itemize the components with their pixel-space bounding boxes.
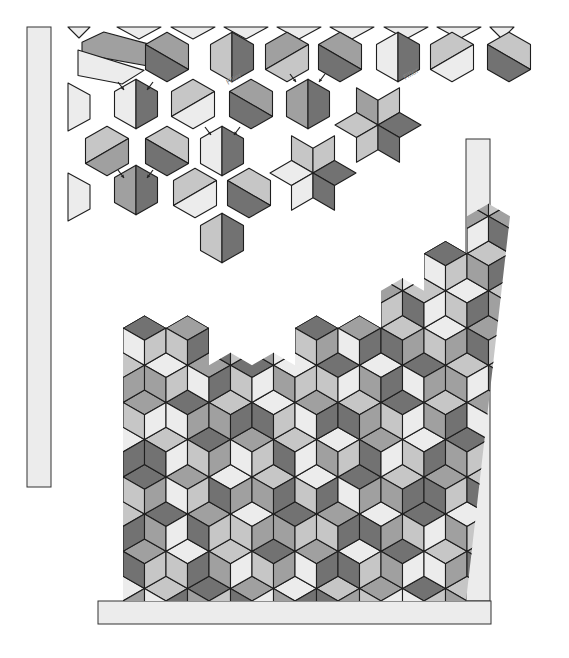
block-rhombus-right <box>145 253 167 290</box>
block-rhombus-top <box>80 539 123 564</box>
block-rhombus-right <box>80 514 102 551</box>
hex-half <box>115 79 137 129</box>
hex-half <box>222 126 244 176</box>
block-rhombus-right <box>532 551 554 588</box>
block-rhombus-right <box>102 328 124 365</box>
block-rhombus-right <box>80 440 102 477</box>
block-rhombus-right <box>510 440 532 477</box>
block-rhombus-right <box>532 253 554 290</box>
block-rhombus-left <box>59 291 81 328</box>
block-rhombus-left <box>274 216 296 253</box>
block-rhombus-left <box>59 440 81 477</box>
block-rhombus-top <box>274 278 317 303</box>
block-rhombus-left <box>510 477 532 514</box>
edge-piece <box>68 83 90 131</box>
block-rhombus-top <box>510 241 553 266</box>
tessellation-diagram: FillerFiller <box>0 0 569 658</box>
block-rhombus-top <box>80 390 123 415</box>
hex-half <box>308 79 330 129</box>
block-rhombus-top <box>209 316 252 341</box>
hex-half <box>211 32 233 82</box>
block-rhombus-top <box>102 278 145 303</box>
block-rhombus-left <box>510 328 532 365</box>
block-rhombus-right <box>231 253 253 290</box>
block-rhombus-top <box>338 241 381 266</box>
hex-half <box>115 165 137 215</box>
block-rhombus-top <box>123 241 166 266</box>
edge-piece <box>68 173 90 221</box>
block-rhombus-top <box>317 204 360 229</box>
block-rhombus-right <box>295 216 317 253</box>
block-rhombus-right <box>381 216 403 253</box>
block-rhombus-right <box>446 179 468 216</box>
block-rhombus-left <box>123 253 145 290</box>
block-rhombus-left <box>274 291 296 328</box>
block-rhombus-right <box>532 477 554 514</box>
block-rhombus-top <box>360 204 403 229</box>
block-rhombus-left <box>59 589 81 626</box>
block-rhombus-right <box>403 253 425 290</box>
block-rhombus-top <box>252 241 295 266</box>
hex-half <box>201 126 223 176</box>
block-rhombus-top <box>381 241 424 266</box>
edge-piece <box>171 27 215 39</box>
block-rhombus-top <box>252 316 295 341</box>
block-rhombus-left <box>102 291 124 328</box>
block-rhombus-left <box>489 514 511 551</box>
block-rhombus-right <box>102 551 124 588</box>
block-rhombus-top <box>59 502 102 527</box>
block-rhombus-left <box>295 253 317 290</box>
block-rhombus-left <box>59 365 81 402</box>
block-rhombus-top <box>295 241 338 266</box>
block-rhombus-left <box>252 253 274 290</box>
block-rhombus-top <box>59 576 102 601</box>
hex-half <box>377 32 399 82</box>
block-rhombus-right <box>489 179 511 216</box>
block-rhombus-top <box>489 576 532 601</box>
hex-half <box>136 79 158 129</box>
block-rhombus-top <box>510 539 553 564</box>
block-rhombus-left <box>102 365 124 402</box>
hex-half <box>136 165 158 215</box>
block-rhombus-left <box>360 216 382 253</box>
block-rhombus-left <box>145 216 167 253</box>
block-rhombus-right <box>510 365 532 402</box>
bottom-horizontal-bar <box>98 601 491 624</box>
block-rhombus-right <box>510 216 532 253</box>
block-rhombus-right <box>532 328 554 365</box>
block-rhombus-right <box>166 216 188 253</box>
block-rhombus-left <box>166 253 188 290</box>
block-rhombus-top <box>403 204 446 229</box>
block-rhombus-right <box>360 253 382 290</box>
block-rhombus-right <box>510 514 532 551</box>
block-rhombus-left <box>80 328 102 365</box>
hex-half <box>287 79 309 129</box>
block-rhombus-right <box>80 365 102 402</box>
block-rhombus-left <box>510 551 532 588</box>
block-rhombus-left <box>381 179 403 216</box>
block-rhombus-left <box>80 253 102 290</box>
block-rhombus-right <box>123 216 145 253</box>
block-rhombus-left <box>80 477 102 514</box>
block-rhombus-left <box>317 216 339 253</box>
block-rhombus-top <box>188 278 231 303</box>
block-rhombus-top <box>489 427 532 452</box>
block-rhombus-right <box>489 477 511 514</box>
block-rhombus-top <box>489 353 532 378</box>
block-rhombus-right <box>80 216 102 253</box>
block-rhombus-left <box>424 179 446 216</box>
block-rhombus-left <box>489 589 511 626</box>
block-rhombus-left <box>510 402 532 439</box>
block-rhombus-top <box>510 316 553 341</box>
block-rhombus-top <box>510 167 553 192</box>
hex-half <box>201 213 223 263</box>
block-rhombus-left <box>59 216 81 253</box>
block-rhombus-left <box>489 440 511 477</box>
block-rhombus-top <box>59 353 102 378</box>
block-rhombus-left <box>403 216 425 253</box>
block-rhombus-left <box>102 440 124 477</box>
block-rhombus-right <box>403 179 425 216</box>
block-rhombus-top <box>510 390 553 415</box>
block-rhombus-left <box>80 551 102 588</box>
block-rhombus-left <box>80 402 102 439</box>
